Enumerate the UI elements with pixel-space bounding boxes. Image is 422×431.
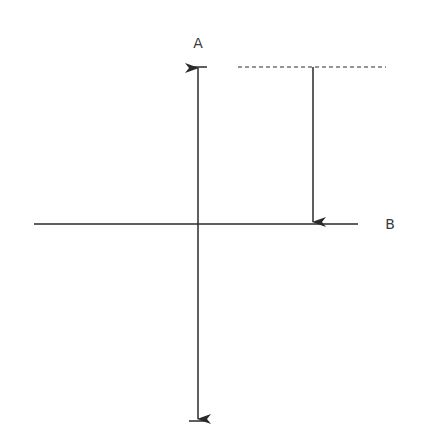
- label-b: B: [385, 216, 395, 232]
- label-a: A: [193, 35, 203, 51]
- diagram-canvas: A B: [0, 0, 422, 431]
